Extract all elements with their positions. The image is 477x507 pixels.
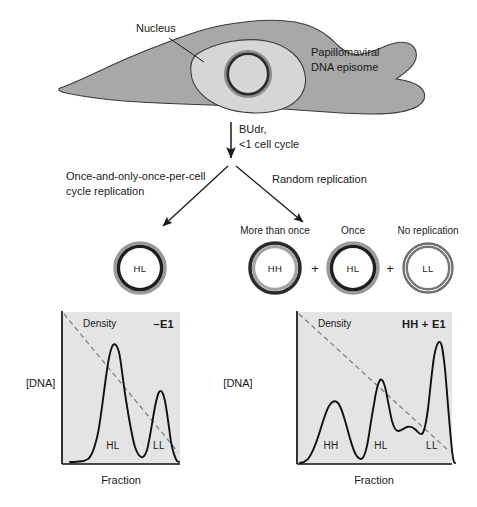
plus-separator-2: + — [386, 261, 394, 276]
chart-panel-right: Density HH + E1 HH HL LL [DNA] Fraction — [223, 311, 455, 486]
diagram-svg: Nucleus Papillomaviral DNA episome BUdr,… — [0, 0, 477, 507]
episome-core — [230, 56, 265, 91]
cell-diagram: Nucleus Papillomaviral DNA episome — [59, 20, 425, 114]
product-ring-left-hl: HL — [115, 243, 165, 293]
product-ring-right-hl: HL Once — [328, 225, 378, 293]
nucleus-label: Nucleus — [136, 22, 176, 34]
treatment-label-line1: BUdr, — [239, 123, 267, 135]
ring-label: HH — [268, 263, 283, 274]
products-group: HL HH More than once + HL Once + LL No r… — [115, 225, 459, 293]
ring-caption: Once — [341, 225, 365, 236]
peak-label-hh: HH — [323, 440, 338, 451]
ring-caption: More than once — [240, 225, 310, 236]
panel-title: –E1 — [154, 318, 174, 330]
ring-caption: No replication — [397, 225, 458, 236]
treatment-label-line2: <1 cell cycle — [239, 138, 299, 150]
y-axis-label: [DNA] — [223, 377, 252, 389]
branch-right-label: Random replication — [272, 173, 367, 185]
x-axis-label: Fraction — [101, 474, 141, 486]
ring-label: HL — [347, 263, 360, 274]
ring-label: LL — [422, 263, 433, 274]
episome-label-line1: Papillomaviral — [311, 46, 379, 58]
peak-label-hl: HL — [374, 440, 388, 451]
branch-left-label-line2: cycle replication — [66, 185, 144, 197]
product-ring-right-ll: LL No replication — [397, 225, 458, 293]
chart-panel-left: Density –E1 HL LL [DNA] Fraction — [26, 311, 180, 486]
peak-label-ll: LL — [426, 440, 438, 451]
peak-label-ll: LL — [153, 440, 165, 451]
product-ring-right-hh: HH More than once — [240, 225, 310, 293]
episome-label-line2: DNA episome — [311, 61, 378, 73]
panel-title: HH + E1 — [402, 318, 446, 330]
ring-label: HL — [134, 263, 147, 274]
peak-label-hl: HL — [106, 440, 120, 451]
density-label: Density — [318, 318, 351, 329]
branch-left-label-line1: Once-and-only-once-per-cell — [66, 170, 205, 182]
figure-canvas: Nucleus Papillomaviral DNA episome BUdr,… — [0, 0, 477, 507]
treatment-arrow-group: BUdr, <1 cell cycle — [231, 122, 299, 158]
y-axis-label: [DNA] — [26, 377, 55, 389]
branch-arrows-group: Once-and-only-once-per-cell cycle replic… — [66, 166, 367, 226]
x-axis-label: Fraction — [354, 474, 394, 486]
density-label: Density — [83, 318, 116, 329]
plus-separator-1: + — [311, 261, 319, 276]
